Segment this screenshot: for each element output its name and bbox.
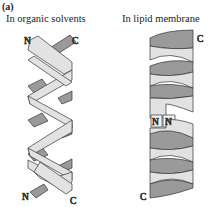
terminus-n-middle-right: N xyxy=(165,117,172,127)
terminus-c-bottom-right: C xyxy=(140,192,146,202)
helix-diagram: N C N C C N N C xyxy=(0,0,221,207)
terminus-n-top: N xyxy=(24,36,31,46)
terminus-n-bottom: N xyxy=(22,192,29,202)
terminus-c-top: C xyxy=(72,36,78,46)
light-strand xyxy=(28,36,72,194)
membrane-helices: C N N C xyxy=(140,30,203,202)
double-helix: N C N C xyxy=(22,35,78,206)
terminus-n-middle-left: N xyxy=(152,117,159,127)
terminus-c-top-right: C xyxy=(197,34,203,44)
terminus-c-bottom: C xyxy=(70,196,76,206)
